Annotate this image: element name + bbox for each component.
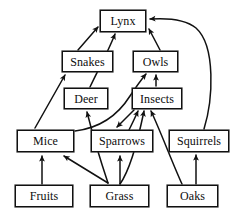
node-mice[interactable]: Mice: [17, 130, 74, 152]
node-label-deer: Deer: [74, 92, 98, 104]
node-label-snakes: Snakes: [70, 55, 105, 67]
node-insects[interactable]: Insects: [132, 88, 182, 109]
node-squirrels[interactable]: Squirrels: [169, 130, 229, 152]
edge-snakes-lynx: [78, 27, 98, 50]
node-label-mice: Mice: [33, 135, 58, 147]
node-label-fruits: Fruits: [30, 190, 59, 202]
node-label-lynx: Lynx: [110, 15, 135, 27]
food-web-diagram: Lynx Snakes Owls Deer Insects Mice Sparr…: [0, 0, 237, 216]
node-deer[interactable]: Deer: [64, 88, 108, 109]
node-label-owls: Owls: [143, 55, 169, 67]
edge-owls-lynx: [149, 29, 160, 50]
food-web-arrows: [0, 0, 237, 216]
node-snakes[interactable]: Snakes: [62, 51, 113, 72]
node-lynx[interactable]: Lynx: [100, 10, 146, 32]
node-label-grass: Grass: [106, 190, 134, 202]
node-label-squirrels: Squirrels: [177, 135, 221, 147]
node-label-oaks: Oaks: [180, 190, 205, 202]
node-fruits[interactable]: Fruits: [15, 185, 73, 207]
node-grass[interactable]: Grass: [90, 185, 149, 207]
edge-grass-mice: [64, 156, 108, 183]
edge-squirrels-lynx: [150, 19, 211, 129]
node-oaks[interactable]: Oaks: [167, 185, 218, 207]
node-owls[interactable]: Owls: [133, 51, 178, 72]
node-label-sparrows: Sparrows: [99, 135, 145, 147]
node-sparrows[interactable]: Sparrows: [91, 130, 153, 152]
node-label-insects: Insects: [140, 92, 174, 104]
edge-mice-snakes: [35, 75, 65, 128]
